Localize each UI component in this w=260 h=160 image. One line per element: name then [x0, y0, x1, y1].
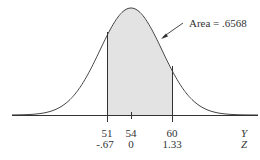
axis-label-z: Z [241, 138, 248, 150]
tick-z-neg067: -.67 [96, 138, 114, 150]
normal-curve-chart: Area = .6568 51 54 60 -.67 0 1.33 Y Z [0, 0, 260, 160]
tick-z-133: 1.33 [162, 138, 182, 150]
tick-z-0: 0 [128, 138, 134, 150]
area-annotation: Area = .6568 [189, 17, 247, 29]
shaded-area [107, 8, 172, 115]
